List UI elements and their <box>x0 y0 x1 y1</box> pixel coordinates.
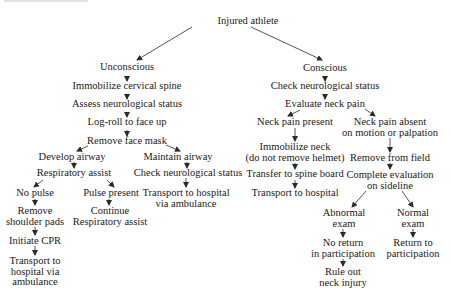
node-complete-evaluation: Complete evaluationon sideline <box>346 170 433 191</box>
node-label: (do not remove helmet) <box>246 152 345 163</box>
node-label: Transport to hospital <box>251 188 338 199</box>
node-label: on sideline <box>346 180 433 191</box>
node-maintain-airway: Maintain airway <box>143 152 212 163</box>
node-remove-shoulder-pads: Removeshoulder pads <box>6 206 64 227</box>
node-label: Log-roll to face up <box>87 117 166 128</box>
node-label: on motion or palpation <box>342 127 438 138</box>
node-label: Neck pain present <box>257 117 333 128</box>
node-label: Respiratory assist <box>73 216 147 227</box>
node-label: Develop airway <box>39 152 106 163</box>
node-label: Rule out <box>319 267 367 278</box>
node-assess-neurological-status: Assess neurological status <box>72 99 182 110</box>
node-label: Pulse present <box>83 188 139 199</box>
edge-root-unconscious <box>137 27 192 60</box>
node-transport-hospital: Transport to hospital <box>251 188 338 199</box>
node-rule-out-neck-injury: Rule outneck injury <box>319 267 367 288</box>
node-no-pulse: No pulse <box>16 188 54 199</box>
node-label: neck injury <box>319 277 367 288</box>
node-immobilize-cervical-spine: Immobilize cervical spine <box>72 81 181 92</box>
node-label: Abnormal <box>323 208 366 219</box>
node-label: in participation <box>311 248 375 259</box>
node-neck-pain-absent: Neck pain absenton motion or palpation <box>342 117 438 138</box>
node-neck-pain-present: Neck pain present <box>257 117 333 128</box>
node-transport-ambulance-b: Transport to hospitalvia ambulance <box>142 188 229 209</box>
node-transport-ambulance-a: Transport tohospital viaambulance <box>9 256 60 288</box>
node-label: Neck pain absent <box>342 117 438 128</box>
node-remove-face-mask: Remove face mask <box>87 136 167 147</box>
node-label: Injured athlete <box>218 16 279 27</box>
node-label: Evaluate neck pain <box>285 99 365 110</box>
node-initiate-cpr: Initiate CPR <box>9 236 61 247</box>
node-label: Immobilize neck <box>246 142 345 153</box>
node-label: Transport to <box>9 256 60 267</box>
node-log-roll: Log-roll to face up <box>87 117 166 128</box>
node-label: No return <box>311 238 375 249</box>
node-label: Conscious <box>303 63 347 74</box>
node-label: Transport to hospital <box>142 188 229 199</box>
node-label: Initiate CPR <box>9 236 61 247</box>
node-respiratory-assist: Respiratory assist <box>37 168 111 179</box>
node-label: Respiratory assist <box>37 168 111 179</box>
node-label: Remove <box>6 206 64 217</box>
node-evaluate-neck-pain: Evaluate neck pain <box>285 99 365 110</box>
edge-root-conscious <box>251 27 322 60</box>
node-label: Unconscious <box>100 62 154 73</box>
node-check-neurological-status-u: Check neurological status <box>134 168 242 179</box>
node-label: Complete evaluation <box>346 170 433 181</box>
node-label: ambulance <box>9 277 60 288</box>
node-label: Immobilize cervical spine <box>72 81 181 92</box>
node-conscious: Conscious <box>303 63 347 74</box>
node-label: Return to <box>386 238 439 249</box>
node-label: No pulse <box>16 188 54 199</box>
node-continue-respiratory-assist: ContinueRespiratory assist <box>73 206 147 227</box>
node-abnormal-exam: Abnormalexam <box>323 208 366 229</box>
node-label: Assess neurological status <box>72 99 182 110</box>
node-label: Normal <box>397 208 429 219</box>
node-injured-athlete: Injured athlete <box>218 16 279 27</box>
node-immobilize-neck: Immobilize neck(do not remove helmet) <box>246 142 345 163</box>
node-label: exam <box>397 218 429 229</box>
node-label: participation <box>386 248 439 259</box>
node-label: Transfer to spine board <box>246 169 343 180</box>
node-transfer-spine-board: Transfer to spine board <box>246 169 343 180</box>
node-label: Check neurological status <box>271 81 379 92</box>
node-label: Check neurological status <box>134 168 242 179</box>
node-develop-airway: Develop airway <box>39 152 106 163</box>
node-check-neurological-status-c: Check neurological status <box>271 81 379 92</box>
node-normal-exam: Normalexam <box>397 208 429 229</box>
node-remove-from-field: Remove from field <box>350 153 430 164</box>
node-label: via ambulance <box>142 198 229 209</box>
node-pulse-present: Pulse present <box>83 188 139 199</box>
node-label: exam <box>323 218 366 229</box>
node-unconscious: Unconscious <box>100 62 154 73</box>
node-return-to-participation: Return toparticipation <box>386 238 439 259</box>
node-label: Continue <box>73 206 147 217</box>
node-label: Maintain airway <box>143 152 212 163</box>
node-label: Remove face mask <box>87 136 167 147</box>
node-no-return: No returnin participation <box>311 238 375 259</box>
node-label: Remove from field <box>350 153 430 164</box>
node-label: shoulder pads <box>6 216 64 227</box>
flowchart-edges <box>0 0 453 297</box>
